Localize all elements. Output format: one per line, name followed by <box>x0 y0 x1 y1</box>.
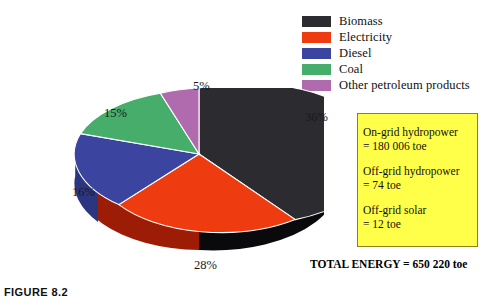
total-energy-text: TOTAL ENERGY = 650 220 toe <box>310 258 467 270</box>
legend-swatch-icon <box>302 32 331 43</box>
figure-caption: FIGURE 8.2 <box>4 286 68 298</box>
figure-canvas: Biomass Electricity Diesel Coal Other pe… <box>0 0 488 306</box>
annotation-box: On-grid hydropower = 180 006 toe Off-gri… <box>357 113 478 247</box>
pie-label-biomass: 36% <box>305 110 328 125</box>
annotation-entry-off-grid-hydropower: Off-grid hydropower = 74 toe <box>363 164 477 192</box>
legend-swatch-icon <box>302 48 331 59</box>
annotation-entry-off-grid-solar: Off-grid solar = 12 toe <box>363 203 477 231</box>
legend-item-label: Diesel <box>339 47 372 60</box>
chart-legend: Biomass Electricity Diesel Coal Other pe… <box>302 14 484 94</box>
annotation-entry-name: Off-grid hydropower <box>363 164 477 178</box>
annotation-entry-value: = 12 toe <box>363 217 477 231</box>
legend-item-electricity: Electricity <box>302 30 484 45</box>
legend-item-label: Other petroleum products <box>339 79 470 92</box>
legend-item-label: Coal <box>339 63 363 76</box>
legend-swatch-icon <box>302 16 331 27</box>
annotation-entry-name: On-grid hydropower <box>363 125 477 139</box>
legend-item-label: Biomass <box>339 15 383 28</box>
annotation-entry-value: = 74 toe <box>363 178 477 192</box>
pie-label-other-petroleum-products: 5% <box>193 79 210 94</box>
legend-item-coal: Coal <box>302 62 484 77</box>
pie-label-diesel: 16% <box>72 185 95 200</box>
annotation-entry-on-grid-hydropower: On-grid hydropower = 180 006 toe <box>363 125 477 153</box>
legend-item-diesel: Diesel <box>302 46 484 61</box>
annotation-entry-name: Off-grid solar <box>363 203 477 217</box>
legend-item-label: Electricity <box>339 31 392 44</box>
legend-item-biomass: Biomass <box>302 14 484 29</box>
pie-label-electricity: 28% <box>194 258 217 273</box>
annotation-entry-value: = 180 006 toe <box>363 139 477 153</box>
pie-label-coal: 15% <box>104 106 127 121</box>
legend-item-other-petroleum-products: Other petroleum products <box>302 78 484 93</box>
legend-swatch-icon <box>302 64 331 75</box>
